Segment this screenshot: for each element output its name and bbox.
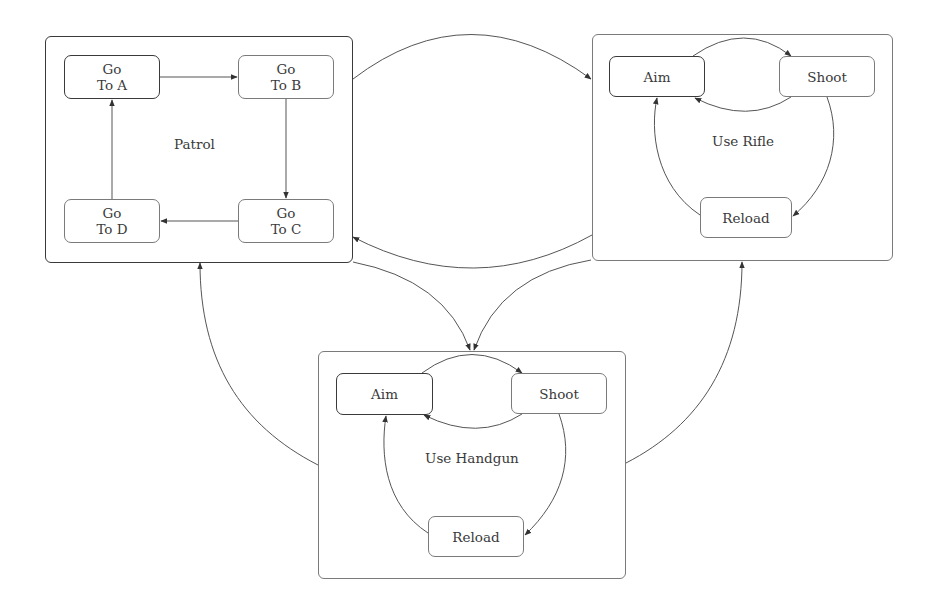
edge-handgun-to-rifle: [626, 262, 742, 463]
edge-rifle-to-handgun: [474, 260, 591, 350]
edge-handgun-to-patrol: [200, 263, 318, 465]
edge-patrol-to-handgun: [353, 262, 470, 350]
group-use-rifle: [592, 34, 893, 261]
edge-rifle-to-patrol: [353, 235, 592, 268]
group-use-handgun: [318, 351, 626, 579]
group-patrol: [45, 36, 353, 263]
edge-patrol-to-rifle: [353, 35, 591, 80]
